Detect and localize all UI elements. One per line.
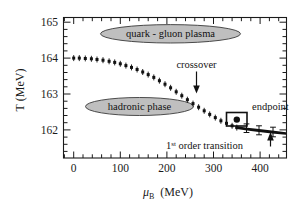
endpoint-annotation: endpoint [252, 101, 289, 112]
y-axis-title: T (MeV) [13, 69, 27, 112]
x-axis-title-unit: (MeV) [154, 185, 193, 199]
y-tick-label-165: 165 [41, 16, 59, 28]
x-axis-title-mu: μ [142, 185, 149, 199]
svg-text:1st order transition: 1st order transition [166, 140, 244, 151]
first-order-transition-annotation: 1st order transition [166, 140, 244, 151]
y-axis-title-text: T (MeV) [13, 69, 27, 112]
svg-text:T (MeV): T (MeV) [13, 69, 27, 112]
qcd-phase-diagram-figure: 165 164 163 162 0 100 200 300 400 T (MeV… [0, 0, 304, 217]
x-tick-label-0: 0 [71, 162, 77, 174]
x-tick-label-300: 300 [205, 162, 223, 174]
hadronic-phase-region: hadronic phase [86, 98, 194, 116]
x-tick-label-400: 400 [251, 162, 269, 174]
plot-svg: 165 164 163 162 0 100 200 300 400 T (MeV… [0, 0, 304, 217]
first-order-suffix: order transition [176, 140, 244, 151]
x-tick-label-200: 200 [158, 162, 176, 174]
y-tick-label-162: 162 [41, 124, 59, 136]
quark-gluon-plasma-label: quark - gluon plasma [126, 28, 215, 39]
endpoint-label: endpoint [252, 101, 289, 112]
x-tick-label-100: 100 [112, 162, 130, 174]
quark-gluon-plasma-region: quark - gluon plasma [101, 25, 241, 43]
crossover-annotation: crossover [176, 59, 217, 70]
y-tick-label-164: 164 [41, 52, 59, 64]
crossover-label: crossover [176, 59, 217, 70]
endpoint-marker [234, 116, 240, 122]
hadronic-phase-label: hadronic phase [108, 101, 172, 112]
y-tick-label-163: 163 [41, 88, 59, 100]
